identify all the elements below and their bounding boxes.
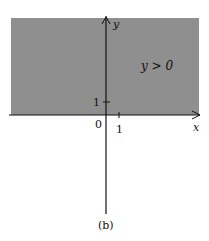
region-label: y > 0 bbox=[141, 60, 173, 72]
y-tick-label: 1 bbox=[93, 97, 100, 108]
origin-label: 0 bbox=[95, 119, 102, 130]
x-axis-label: x bbox=[193, 122, 199, 133]
caption: (b) bbox=[98, 220, 114, 231]
y-axis-label: y bbox=[113, 19, 119, 30]
diagram-canvas bbox=[0, 0, 209, 241]
x-tick-label: 1 bbox=[116, 124, 123, 135]
